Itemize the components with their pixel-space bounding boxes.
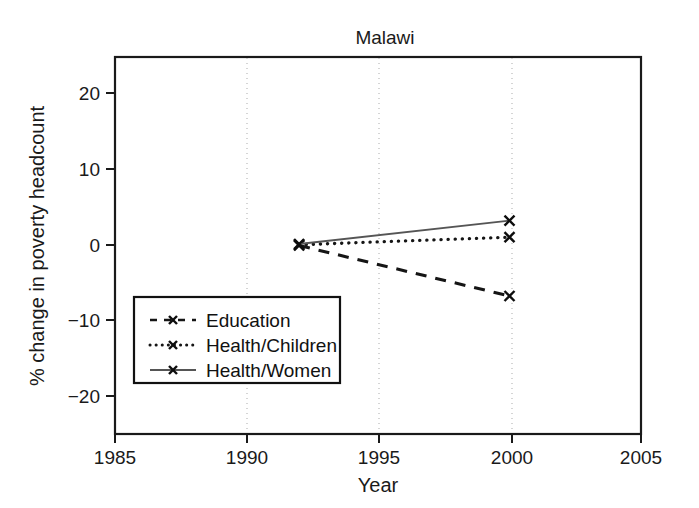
y-tick-label-10: 10 bbox=[79, 159, 100, 180]
chart-page: Malawi % change in poverty headcount Yea… bbox=[0, 0, 699, 508]
y-axis-title: % change in poverty headcount bbox=[26, 105, 48, 386]
chart-title: Malawi bbox=[355, 27, 414, 48]
x-tick-label-2005: 2005 bbox=[620, 447, 662, 468]
y-tick-label-neg10: −10 bbox=[68, 310, 100, 331]
legend-label-education: Education bbox=[206, 310, 291, 331]
series-education bbox=[294, 241, 514, 302]
y-tick-label-0: 0 bbox=[89, 235, 100, 256]
x-axis-title: Year bbox=[358, 474, 399, 496]
marker-education-2000 bbox=[505, 291, 515, 301]
poverty-headcount-line-chart: Malawi % change in poverty headcount Yea… bbox=[0, 0, 699, 508]
data-series-layer bbox=[294, 216, 514, 301]
x-axis: 1985 1990 1995 2000 2005 bbox=[94, 434, 662, 468]
series-line-education bbox=[299, 246, 509, 297]
x-tick-label-2000: 2000 bbox=[491, 447, 533, 468]
x-tick-label-1990: 1990 bbox=[226, 447, 268, 468]
y-axis: 20 10 0 −10 −20 bbox=[68, 83, 115, 407]
y-tick-label-20: 20 bbox=[79, 83, 100, 104]
legend-label-health-women: Health/Women bbox=[206, 360, 331, 381]
y-tick-label-neg20: −20 bbox=[68, 386, 100, 407]
legend-label-health-children: Health/Children bbox=[206, 335, 337, 356]
legend: Education Health/Children Health/Women bbox=[134, 297, 340, 383]
x-tick-label-1995: 1995 bbox=[358, 447, 400, 468]
x-tick-label-1985: 1985 bbox=[94, 447, 136, 468]
